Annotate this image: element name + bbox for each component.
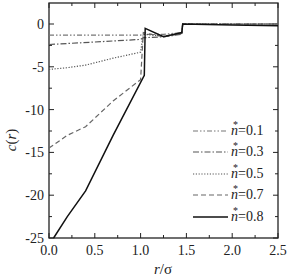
legend-label: n*=0.7 [231, 183, 263, 202]
y-tick-label: 0 [37, 17, 44, 32]
y-tick-label: -5 [32, 60, 44, 75]
series-line [49, 24, 278, 69]
axis-ticks [49, 3, 278, 238]
x-tick-label: 2.0 [223, 243, 241, 258]
y-tick-label: -15 [25, 145, 44, 160]
x-axis-title: r/σ [154, 261, 172, 277]
y-tick-label: -20 [25, 188, 44, 203]
y-tick-label: -25 [25, 231, 44, 246]
legend-label: n*=0.1 [231, 119, 263, 138]
y-axis-title: c(r) [3, 129, 20, 152]
chart: 0.00.51.01.52.02.50-5-10-15-20-25 n*=0.1… [0, 0, 287, 279]
legend: n*=0.1n*=0.3n*=0.5n*=0.7n*=0.8 [193, 119, 263, 224]
legend-label: n*=0.5 [231, 162, 263, 181]
y-tick-label: -10 [25, 103, 44, 118]
plot-frame [49, 3, 278, 238]
x-tick-label: 2.5 [269, 243, 287, 258]
legend-label: n*=0.3 [231, 140, 263, 159]
x-tick-label: 0.5 [86, 243, 104, 258]
x-tick-label: 1.5 [178, 243, 196, 258]
x-tick-label: 1.0 [132, 243, 150, 258]
legend-label: n*=0.8 [231, 205, 263, 224]
